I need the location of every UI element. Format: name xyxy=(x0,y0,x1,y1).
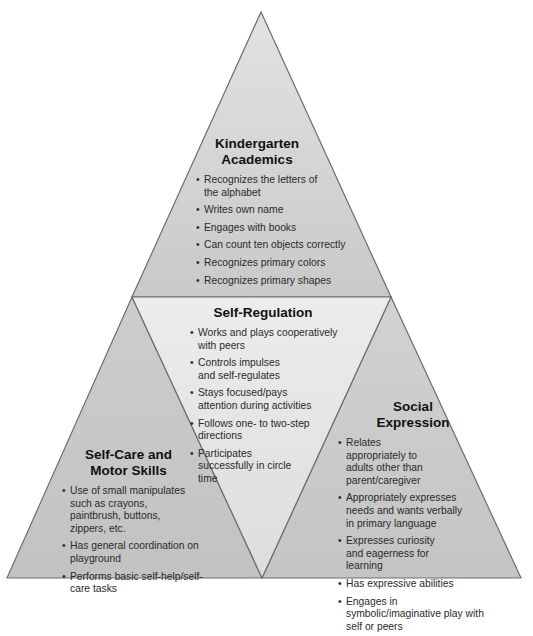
list-item: •Controls impulses and self-regulates xyxy=(190,357,298,382)
list-item: •Expresses curiosity and eagerness for l… xyxy=(338,535,446,573)
list-item: •Follows one- to two-step directions xyxy=(190,418,310,443)
list-item: •Can count ten objects correctly xyxy=(196,239,366,252)
list-item: •Writes own name xyxy=(196,204,366,217)
list-item: •Engages with books xyxy=(196,222,366,235)
list-item: •Engages in symbolic/imaginative play wi… xyxy=(338,596,494,634)
list-item: •Recognizes primary shapes xyxy=(196,275,366,288)
list-item: •Recognizes the letters of the alphabet xyxy=(196,174,322,199)
section-title: Self-Regulation xyxy=(176,305,350,321)
skill-list: •Use of small manipulates such as crayon… xyxy=(62,485,197,596)
skill-list: •Works and plays cooperatively with peer… xyxy=(190,327,350,486)
list-item: •Stays focused/pays attention during act… xyxy=(190,387,316,412)
section-self-care-motor-skills: Self-Care and Motor Skills •Use of small… xyxy=(62,447,197,601)
section-kindergarten-academics: Kindergarten Academics •Recognizes the l… xyxy=(196,136,366,292)
skill-list: •Recognizes the letters of the alphabet … xyxy=(196,174,366,287)
list-item: •Has expressive abilities xyxy=(338,578,498,591)
list-item: •Appropriately expresses needs and wants… xyxy=(338,492,464,530)
section-self-regulation: Self-Regulation •Works and plays coopera… xyxy=(190,305,350,491)
section-social-expression: Social Expression •Relates appropriately… xyxy=(338,399,498,636)
section-title: Kindergarten Academics xyxy=(172,136,342,168)
section-title: Social Expression xyxy=(328,399,498,431)
list-item: •Has general coordination on playground xyxy=(62,540,208,565)
list-item: •Relates appropriately to adults other t… xyxy=(338,437,438,487)
skill-list: •Relates appropriately to adults other t… xyxy=(338,437,498,633)
section-title: Self-Care and Motor Skills xyxy=(60,447,197,479)
list-item: •Recognizes primary colors xyxy=(196,257,366,270)
list-item: •Participates successfully in circle tim… xyxy=(190,448,310,486)
list-item: •Works and plays cooperatively with peer… xyxy=(190,327,346,352)
list-item: •Use of small manipulates such as crayon… xyxy=(62,485,190,535)
list-item: •Performs basic self-help/self-care task… xyxy=(62,571,208,596)
